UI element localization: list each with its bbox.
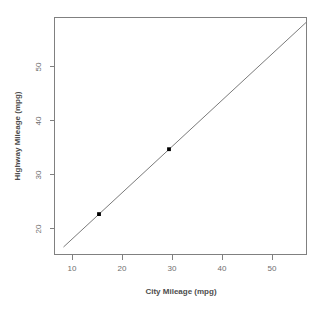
x-axis-title: City Mileage (mpg) — [145, 287, 216, 296]
figure-background — [0, 0, 326, 313]
x-tick-label-30: 30 — [168, 264, 177, 273]
y-axis-title: Highway Mileage (mpg) — [13, 91, 22, 180]
y-tick-label-20: 20 — [34, 224, 43, 233]
y-tick-label-40: 40 — [34, 116, 43, 125]
x-tick-label-40: 40 — [218, 264, 227, 273]
scatter-plot-figure: 10 20 30 40 50 20 30 40 50 City Mileage … — [0, 0, 326, 313]
data-point-1 — [97, 212, 101, 216]
plot-canvas: 10 20 30 40 50 20 30 40 50 City Mileage … — [0, 0, 326, 313]
x-tick-label-10: 10 — [68, 264, 77, 273]
x-tick-label-50: 50 — [268, 264, 277, 273]
x-tick-label-20: 20 — [118, 264, 127, 273]
y-tick-label-50: 50 — [34, 62, 43, 71]
data-point-2 — [167, 147, 171, 151]
y-tick-label-30: 30 — [34, 170, 43, 179]
